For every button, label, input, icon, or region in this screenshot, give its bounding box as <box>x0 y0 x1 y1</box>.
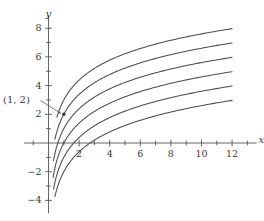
y-tick-label-neg4: −4 <box>0 195 42 205</box>
x-tick-label-4: 4 <box>100 149 120 159</box>
y-axis-label: y <box>46 9 52 19</box>
point-annotation-label: (1, 2) <box>3 95 30 105</box>
x-tick-label-10: 10 <box>192 149 212 159</box>
annotated-point-marker <box>62 113 65 116</box>
curve-3 <box>53 72 232 178</box>
y-tick-label-4: 4 <box>0 81 42 91</box>
x-tick-label-8: 8 <box>161 149 181 159</box>
y-tick-label-6: 6 <box>0 52 42 62</box>
x-tick-label-6: 6 <box>130 149 150 159</box>
logarithmic-curves-figure: 8 6 4 2 −2 −4 2 4 6 8 10 12 x y (1, 2) <box>0 0 264 221</box>
annotation-leader-line <box>41 101 61 114</box>
annotation-group <box>41 101 66 117</box>
x-tick-label-12: 12 <box>222 149 242 159</box>
curve-2 <box>54 57 233 160</box>
x-tick-label-2: 2 <box>69 149 89 159</box>
y-tick-label-neg2: −2 <box>0 167 42 177</box>
y-tick-label-2: 2 <box>0 109 42 119</box>
curve-0 <box>57 29 232 117</box>
x-axis-label: x <box>259 135 264 145</box>
curve-4 <box>54 86 233 189</box>
curves-group <box>53 29 232 197</box>
y-tick-label-8: 8 <box>0 23 42 33</box>
